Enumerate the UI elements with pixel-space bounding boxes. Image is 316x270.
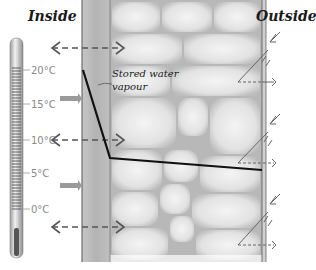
outer-render	[262, 0, 266, 262]
scale-label-5: 5°C	[31, 168, 49, 179]
scale-label-15: 15°C	[31, 99, 56, 110]
plaster-layer	[82, 0, 110, 262]
scale-label-20: 20°C	[31, 65, 56, 76]
inside-label: Inside	[27, 8, 77, 24]
heat-arrows	[60, 93, 82, 191]
scale-label-0: 0°C	[31, 204, 49, 215]
stored-vapour-line1: Stored water	[112, 68, 180, 79]
outside-label: Outside	[256, 8, 316, 24]
stored-vapour-line2: vapour	[112, 81, 148, 92]
thermometer: 20°C 15°C 10°C 5°C 0°C	[10, 38, 56, 258]
wall-vapour-diagram: 20°C 15°C 10°C 5°C 0°C Inside Outside St…	[0, 0, 316, 270]
brick-wall	[110, 0, 262, 270]
